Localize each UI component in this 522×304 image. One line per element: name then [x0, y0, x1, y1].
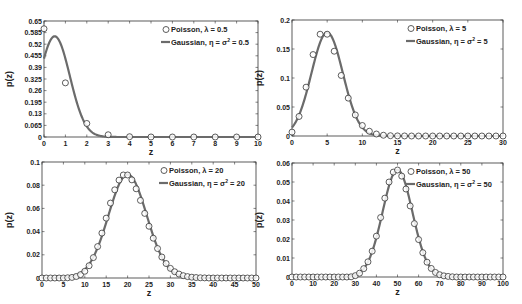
legend: Poisson, λ = 0.5Gaussian, η = σ2 = 0.5: [161, 25, 249, 47]
x-axis-label: z: [149, 147, 154, 157]
y-tick-label: 0.06: [26, 205, 40, 212]
legend-poisson-marker: [408, 169, 414, 175]
legend-gaussian-suffix: = 50: [475, 180, 492, 189]
x-axis-label: z: [395, 146, 400, 156]
legend-poisson-label: Poisson, λ = 5: [416, 24, 466, 33]
poisson-point: [458, 133, 464, 139]
x-tick-label: 15: [102, 281, 110, 288]
x-tick-label: 30: [499, 139, 507, 146]
legend-gaussian-prefix: Gaussian, η = σ: [171, 38, 227, 47]
poisson-point: [338, 72, 344, 78]
poisson-point: [411, 221, 417, 227]
legend-poisson-label: Poisson, λ = 20: [169, 166, 223, 175]
x-tick-label: 30: [351, 280, 359, 287]
y-tick-label: 0: [38, 134, 42, 141]
y-tick-label: 0.455: [24, 52, 42, 59]
x-tick-label: 50: [394, 280, 402, 287]
y-axis-label: p(z): [254, 70, 264, 86]
x-tick-label: 40: [373, 280, 381, 287]
legend: Poisson, λ = 50Gaussian, η = σ2 = 50: [406, 167, 492, 189]
x-tick-label: 0: [42, 140, 46, 147]
poisson-point: [380, 132, 386, 138]
poisson-point: [155, 246, 161, 252]
legend-gaussian-label: Gaussian, η = σ2 = 50: [416, 179, 492, 189]
y-tick-label: 0.03: [276, 217, 290, 224]
poisson-point: [116, 177, 122, 183]
poisson-point: [407, 203, 413, 209]
poisson-point: [424, 259, 430, 265]
legend: Poisson, λ = 5Gaussian, η = σ2 = 5: [406, 24, 488, 46]
poisson-point: [159, 254, 165, 260]
legend-poisson-marker: [161, 168, 167, 174]
legend-gaussian-prefix: Gaussian, η = σ: [416, 180, 472, 189]
poisson-point: [253, 275, 259, 281]
poisson-point: [479, 133, 485, 139]
x-tick-label: 70: [436, 280, 444, 287]
poisson-point: [84, 120, 90, 126]
poisson-point: [430, 133, 436, 139]
x-tick-label: 5: [325, 139, 329, 146]
legend-gaussian-prefix: Gaussian, η = σ: [416, 37, 472, 46]
poisson-point: [444, 133, 450, 139]
poisson-point: [352, 112, 358, 118]
poisson-point: [317, 31, 323, 37]
legend-gaussian-prefix: Gaussian, η = σ: [169, 179, 225, 188]
x-axis-label: z: [395, 287, 400, 297]
poisson-point: [365, 259, 371, 265]
x-tick-label: 2: [85, 140, 89, 147]
legend-gaussian-label: Gaussian, η = σ2 = 20: [169, 178, 245, 188]
y-tick-label: 0.06: [276, 160, 290, 167]
poisson-point: [303, 84, 309, 90]
poisson-point: [324, 31, 330, 37]
poisson-point: [82, 268, 88, 274]
x-tick-label: 25: [464, 139, 472, 146]
poisson-point: [486, 133, 492, 139]
poisson-point: [395, 167, 401, 173]
x-tick-label: 5: [149, 140, 153, 147]
poisson-point: [142, 210, 148, 216]
x-tick-label: 20: [429, 139, 437, 146]
poisson-point: [416, 133, 422, 139]
poisson-point: [437, 133, 443, 139]
poisson-point: [95, 244, 101, 250]
poisson-point: [137, 197, 143, 203]
x-tick-label: 50: [252, 281, 260, 288]
y-tick-label: 0.52: [28, 41, 42, 48]
legend-gaussian-label: Gaussian, η = σ2 = 5: [416, 36, 488, 46]
y-axis-label: p(z): [254, 212, 264, 228]
panel-3: 0510152025303540455000.020.040.060.080.1…: [4, 159, 260, 299]
poisson-point: [191, 134, 197, 140]
poisson-point: [127, 134, 133, 140]
poisson-point: [500, 274, 506, 280]
poisson-point: [90, 255, 96, 261]
poisson-point: [234, 134, 240, 140]
x-tick-label: 0: [290, 139, 294, 146]
y-axis-label: p(z): [4, 71, 14, 87]
poisson-point: [423, 133, 429, 139]
legend-poisson-marker: [163, 27, 169, 33]
x-tick-label: 4: [128, 140, 132, 147]
legend-poisson-marker: [408, 26, 414, 32]
poisson-point: [386, 179, 392, 185]
poisson-point: [359, 123, 365, 129]
x-tick-label: 10: [81, 281, 89, 288]
poisson-point: [133, 186, 139, 192]
poisson-point: [289, 129, 295, 135]
x-tick-label: 0: [40, 281, 44, 288]
x-tick-label: 20: [124, 281, 132, 288]
poisson-point: [416, 237, 422, 243]
poisson-point: [169, 134, 175, 140]
x-tick-label: 0: [290, 280, 294, 287]
gaussian-curve: [44, 36, 258, 137]
y-tick-label: 0.05: [276, 104, 290, 111]
poisson-point: [472, 133, 478, 139]
poisson-point: [373, 131, 379, 137]
poisson-point: [105, 132, 111, 138]
y-tick-label: 0.2: [280, 17, 290, 24]
y-tick-label: 0.26: [28, 87, 42, 94]
x-tick-label: 20: [330, 280, 338, 287]
legend-gaussian-suffix: = 0.5: [230, 38, 249, 47]
x-tick-label: 35: [188, 281, 196, 288]
y-tick-label: 0.05: [276, 179, 290, 186]
x-tick-label: 8: [213, 140, 217, 147]
